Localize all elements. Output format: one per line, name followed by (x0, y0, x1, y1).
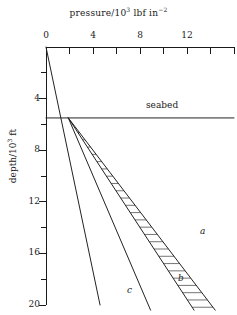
plot-canvas (0, 0, 237, 315)
curve-a (68, 118, 215, 310)
curve-layer (46, 47, 234, 310)
axes-layer (39, 47, 234, 305)
curve-b (68, 118, 194, 310)
chart-figure: pressure/103 lbf in−2 0 4 8 12 4 8 12 16… (0, 0, 237, 315)
curve-hydrostatic-water-gradient (46, 47, 100, 305)
